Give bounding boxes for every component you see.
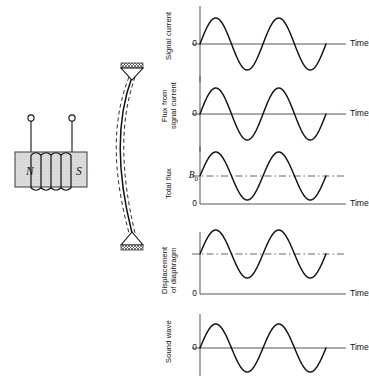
waveform-plot-stack: Signal current0TimeFlux from signal curr…: [152, 0, 369, 376]
plot-row-displacement-of-diaphragm: Displacement of diaphragm0Time: [152, 228, 369, 312]
x-axis-label-flux-from-signal-current: Time: [350, 108, 369, 118]
x-axis-label-displacement-of-diaphragm: Time: [350, 288, 369, 298]
terminal-post-right: [69, 115, 75, 121]
y-axis-label-sound-wave: Sound wave: [152, 310, 186, 374]
plot-svg-total-flux: [186, 142, 369, 226]
y-tick-zero-total-flux: 0: [186, 198, 197, 208]
plot-canvas-total-flux: B00Time: [186, 142, 369, 226]
y-tick-zero-sound-wave: 0: [186, 342, 197, 352]
plot-canvas-flux-from-signal-current: 0Time: [186, 72, 369, 140]
y-axis-label-displacement-of-diaphragm: Displacement of diaphragm: [152, 228, 186, 312]
y-tick-zero-displacement-of-diaphragm: 0: [186, 288, 197, 298]
magnet-south-pole-label: S: [76, 165, 82, 177]
magnet-north-pole-label: N: [25, 165, 35, 177]
y-axis-label-signal-current: Signal current: [152, 2, 186, 70]
waveform-total-flux: [200, 152, 326, 200]
terminal-leads: [31, 121, 72, 155]
apparatus-drawing: N S: [0, 0, 175, 376]
x-axis-label-signal-current: Time: [350, 38, 369, 48]
magnet-coil-diaphragm-assembly: N S: [0, 0, 175, 376]
plot-canvas-sound-wave: 0Time: [186, 310, 369, 374]
plot-row-sound-wave: Sound wave0Time: [152, 310, 369, 374]
plot-svg-displacement-of-diaphragm: [186, 228, 369, 312]
terminal-post-left: [28, 115, 34, 121]
x-axis-label-total-flux: Time: [350, 198, 369, 208]
x-axis-label-sound-wave: Time: [350, 342, 369, 352]
plot-row-flux-from-signal-current: Flux from signal current0Time: [152, 72, 369, 140]
y-tick-zero-signal-current: 0: [186, 38, 197, 48]
y-tick-zero-flux-from-signal-current: 0: [186, 108, 197, 118]
plot-svg-signal-current: [186, 2, 369, 70]
y-tick-b0-total-flux: B0: [182, 169, 198, 183]
plot-canvas-signal-current: 0Time: [186, 2, 369, 70]
loudspeaker-signal-chain-figure: N S Signal current0TimeF: [0, 0, 369, 376]
plot-row-signal-current: Signal current0Time: [152, 2, 369, 70]
y-axis-label-total-flux: Total flux: [152, 142, 186, 226]
plot-row-total-flux: Total fluxB00Time: [152, 142, 369, 226]
y-axis-label-flux-from-signal-current: Flux from signal current: [152, 72, 186, 140]
plot-canvas-displacement-of-diaphragm: 0Time: [186, 228, 369, 312]
diaphragm-bottom-support: [121, 232, 143, 250]
plot-svg-flux-from-signal-current: [186, 72, 369, 140]
plot-svg-sound-wave: [186, 310, 369, 374]
diaphragm-top-support: [121, 63, 143, 80]
waveform-displacement-of-diaphragm: [200, 230, 326, 278]
